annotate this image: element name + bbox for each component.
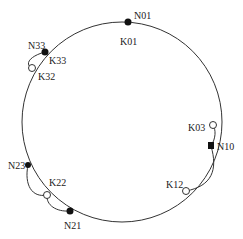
node-n21 [67, 208, 74, 215]
label-n21: N21 [64, 220, 81, 231]
ring-diagram: N01 K01 N33 K33 K32 K03 N10 K12 N23 K22 … [0, 0, 243, 239]
label-n23: N23 [8, 160, 25, 171]
label-k22: K22 [49, 177, 66, 188]
key-k32 [29, 65, 36, 72]
label-n01: N01 [134, 10, 151, 21]
label-k01: K01 [120, 36, 137, 47]
link-n23-k22 [27, 165, 47, 195]
label-k12: K12 [166, 179, 183, 190]
node-n01 [125, 19, 132, 26]
key-k12 [183, 188, 190, 195]
key-k03 [210, 122, 217, 129]
link-k22-n21 [47, 195, 70, 211]
label-n10: N10 [217, 141, 234, 152]
node-n23 [25, 162, 31, 168]
label-k03: K03 [188, 122, 205, 133]
key-k22 [44, 192, 51, 199]
node-n10 [208, 142, 214, 149]
label-n33: N33 [28, 40, 45, 51]
label-k33: K33 [49, 55, 66, 66]
label-k32: K32 [38, 71, 55, 82]
